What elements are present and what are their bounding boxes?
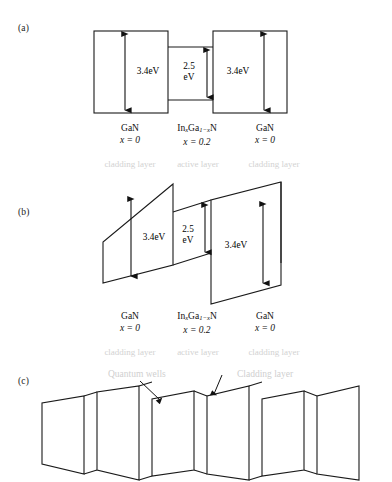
- panel-a-material-right-composition: x = 0: [232, 134, 298, 146]
- panel-c-slab-4: [207, 386, 249, 480]
- mid-in-b: In: [177, 311, 185, 321]
- panel-c-connector-1: [84, 392, 97, 474]
- panel-a-material-mid-formula: InxGa1−xN: [158, 122, 236, 136]
- panel-label-b: (b): [18, 207, 30, 217]
- panel-c-cladding-layer-leader: [214, 375, 222, 394]
- panel-a-well-gap-value-line1: 2.5: [176, 61, 202, 72]
- panel-c-annotation-cladding-layer: Cladding layer: [237, 369, 293, 379]
- panel-a-material-left: GaN x = 0: [97, 122, 163, 146]
- panel-b-well-gap-value-line1: 2.5: [176, 224, 200, 235]
- panel-b-material-mid-composition: x = 0.2: [158, 324, 236, 336]
- panel-b-material-right-composition: x = 0: [232, 322, 298, 334]
- mid-ga-b: Ga: [188, 311, 199, 321]
- panel-c-slab-2: [97, 386, 139, 480]
- panel-c-quantum-wells-leader: [140, 381, 160, 400]
- panel-b-material-left-composition: x = 0: [97, 322, 163, 334]
- panel-c-slab-3: [152, 391, 194, 476]
- panel-c-annotation-quantum-wells: Quantum wells: [108, 369, 166, 379]
- panel-b-right-gap-value: 3.4eV: [214, 240, 258, 251]
- panel-c-connector-4: [249, 382, 262, 480]
- panel-a-well-gap-value-line2: eV: [176, 72, 202, 83]
- panel-b-right-cladding-block-upper: [211, 182, 281, 263]
- panel-a-material-right: GaN x = 0: [232, 122, 298, 146]
- mid-in: In: [177, 123, 185, 133]
- panel-a-material-left-formula: GaN: [97, 122, 163, 134]
- panel-b-material-left: GaN x = 0: [97, 310, 163, 334]
- panel-c-connector-3: [194, 391, 207, 474]
- panel-a-role-right: cladding layer: [224, 159, 324, 169]
- panel-b-material-mid: InxGa1−xN x = 0.2: [158, 310, 236, 336]
- panel-a-right-gap-value: 3.4eV: [216, 66, 260, 77]
- mid-n-b: N: [210, 311, 217, 321]
- panel-b-material-right-formula: GaN: [232, 310, 298, 322]
- panel-label-a: (a): [18, 23, 29, 33]
- panel-b-role-right: cladding layer: [224, 347, 324, 357]
- panel-b-material-right: GaN x = 0: [232, 310, 298, 334]
- panel-b-material-left-formula: GaN: [97, 310, 163, 322]
- mid-sub-1x-b: 1−x: [199, 314, 210, 321]
- panel-c-slab-1: [42, 396, 84, 474]
- panel-a-left-gap-value: 3.4eV: [129, 66, 167, 77]
- panel-c-connector-2: [139, 382, 152, 480]
- panel-a-material-mid-composition: x = 0.2: [158, 136, 236, 148]
- panel-a-material-mid: InxGa1−xN x = 0.2: [158, 122, 236, 148]
- panel-label-c: (c): [18, 376, 29, 386]
- panel-b-well-gap-value-line2: eV: [176, 235, 200, 246]
- panel-b-left-gap-value: 3.4eV: [135, 232, 173, 243]
- mid-sub-1x: 1−x: [199, 126, 210, 133]
- panel-c-connector-5: [304, 391, 317, 474]
- panel-c-slab-6: [317, 386, 359, 480]
- mid-n: N: [210, 123, 217, 133]
- panel-a-material-right-formula: GaN: [232, 122, 298, 134]
- panel-c-slab-5: [262, 391, 304, 476]
- panel-a-material-left-composition: x = 0: [97, 134, 163, 146]
- mid-ga: Ga: [188, 123, 199, 133]
- panel-b-material-mid-formula: InxGa1−xN: [158, 310, 236, 324]
